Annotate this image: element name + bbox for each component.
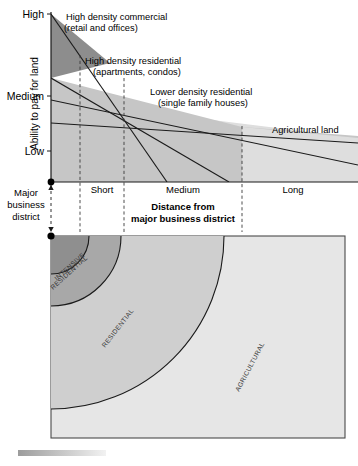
origin-point-marker [48,179,55,186]
origin-arrow-head-down [48,227,53,232]
origin-arrow-head-up [48,185,53,190]
y-tick-label-high: High [22,8,44,20]
x-zone-label-medium: Medium [166,184,200,195]
x-origin-label-line2: business [7,199,45,210]
label-agricultural-land: Agricultural land [272,125,339,135]
x-zone-label-short: Short [91,184,114,195]
y-axis-title: Ability to pay for land [29,57,40,150]
major-business-district-annotation: Major business district [7,185,53,232]
map-center-marker [47,232,54,239]
x-axis-caption-line1: Distance from [151,201,214,212]
label-lower-density-residential-line2: (single family houses) [158,98,248,108]
label-high-density-commercial-line2: (retail and offices) [64,23,138,33]
label-high-density-commercial-line1: High density commercial [66,12,167,22]
bid-rent-and-land-use-figure: High Medium Low Ability to pay for land … [0,0,358,466]
label-high-density-residential-line2: (apartments, condos) [93,67,181,77]
label-high-density-residential-line1: High density residential [85,56,181,66]
x-origin-label-line3: district [12,211,40,222]
label-lower-density-residential-line1: Lower density residential [150,87,252,97]
x-axis-caption-line2: major business district [131,213,236,224]
decorative-gradient-bar [18,450,106,456]
bid-rent-chart: High Medium Low Ability to pay for land … [7,8,358,232]
x-zone-label-long: Long [282,184,303,195]
x-origin-label-line1: Major [14,187,38,198]
